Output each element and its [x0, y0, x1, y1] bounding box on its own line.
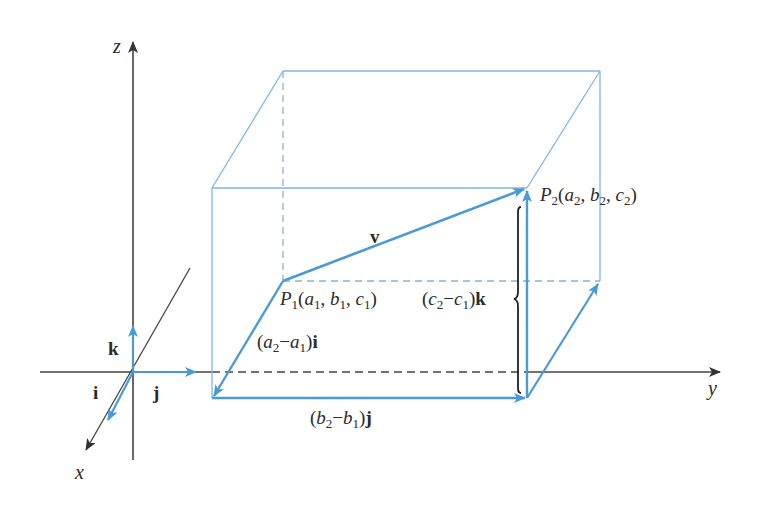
diagram-canvas	[0, 0, 758, 513]
z-component-brace	[514, 207, 521, 393]
x-component-label: (a2−a1)i	[257, 332, 318, 351]
unit-k-label: k	[108, 339, 119, 358]
y-axis-label: y	[708, 378, 717, 398]
point-p2-label: P2(a2, b2, c2)	[540, 185, 637, 204]
x-axis-label: x	[75, 462, 84, 482]
slant-vector	[527, 284, 598, 398]
unit-vector-i	[108, 372, 133, 420]
x-axis	[86, 268, 190, 450]
point-p1-label: P1(a1, b1, c1)	[280, 289, 377, 308]
component-vectors	[212, 189, 598, 398]
unit-i-label: i	[93, 383, 98, 402]
box-edge	[212, 71, 283, 188]
box-edge	[527, 71, 600, 188]
unit-j-label: j	[153, 383, 159, 402]
vector-v-label: v	[370, 227, 380, 246]
vector-box-diagram: z y x k i j v P2(a2, b2, c2) P1(a1, b1, …	[0, 0, 758, 513]
vector-v	[283, 189, 524, 281]
z-axis-label: z	[113, 36, 121, 56]
unit-vectors	[108, 326, 196, 420]
z-component-label: (c2−c1)k	[422, 289, 486, 308]
y-component-label: (b2−b1)j	[310, 408, 372, 427]
